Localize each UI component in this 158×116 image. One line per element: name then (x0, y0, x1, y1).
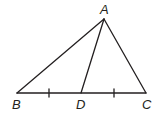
segment-ad (81, 19, 104, 93)
label-a: A (99, 2, 109, 17)
diagram-svg: A B D C (0, 0, 158, 116)
segment-ab (17, 19, 104, 93)
triangle-diagram: A B D C (0, 0, 158, 116)
label-b: B (12, 97, 21, 112)
segment-ac (104, 19, 146, 93)
label-d: D (76, 97, 85, 112)
label-c: C (142, 97, 152, 112)
